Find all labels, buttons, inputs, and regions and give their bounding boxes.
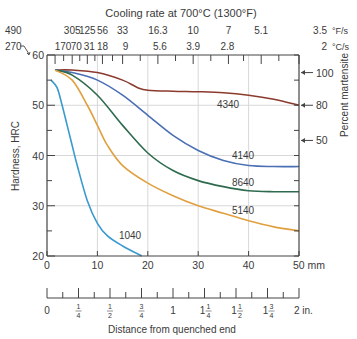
inch-frac-den: 4 <box>140 312 144 319</box>
top-f-label: 33 <box>117 25 129 36</box>
arrowhead-left-icon <box>301 103 305 108</box>
y-tick-label: 20 <box>32 250 44 262</box>
y-tick-label: 40 <box>32 150 44 162</box>
inch-frac-den: 4 <box>77 312 81 319</box>
y2-axis-label: Percent martensite <box>339 53 350 137</box>
top-f-label: 10 <box>188 25 200 36</box>
x-tick-label: 0 <box>44 259 50 271</box>
jominy-hardenability-chart: 203040506001020304050 mm490305125563316.… <box>0 0 357 339</box>
curve-4340 <box>55 70 299 105</box>
inch-frac-den: 2 <box>108 312 112 319</box>
inch-tick-label: 1 <box>170 305 176 316</box>
top-c-label: 2 <box>321 41 327 52</box>
label-1040: 1040 <box>119 230 142 241</box>
top-c-label: 31 <box>84 41 96 52</box>
top-f-label: 490 <box>5 25 22 36</box>
top-f-label: 56 <box>97 25 109 36</box>
inch-frac-num: 1 <box>238 303 242 310</box>
top-c-label: 2.8 <box>220 41 234 52</box>
chart-title: Cooling rate at 700°C (1300°F) <box>105 7 256 19</box>
y-axis-label: Hardness, HRC <box>10 121 21 191</box>
inch-tick-label: 1 <box>263 305 269 316</box>
top-c-label: 170 <box>55 41 72 52</box>
x-tick-label: 40 <box>243 259 255 271</box>
inch-frac-num: 3 <box>270 303 274 310</box>
top-c-label: 3.9 <box>186 41 200 52</box>
label-5140: 5140 <box>232 205 255 216</box>
x-tick-label: 20 <box>142 259 154 271</box>
top-unit-f: °F/s <box>332 26 349 36</box>
inch-frac-den: 4 <box>270 312 274 319</box>
top-c-label: 18 <box>97 41 109 52</box>
x-tick-label: 50 mm <box>293 259 325 271</box>
series-curves <box>51 70 299 256</box>
inch-frac-den: 2 <box>238 312 242 319</box>
label-4140: 4140 <box>232 150 255 161</box>
top-c-label: 270 <box>5 41 22 52</box>
x-tick-label: 10 <box>92 259 104 271</box>
label-8640: 8640 <box>232 177 255 188</box>
grid-lines <box>47 55 299 256</box>
inch-frac-den: 4 <box>207 312 211 319</box>
martensite-label: 80 <box>316 99 328 111</box>
martensite-label: 50 <box>316 134 328 146</box>
martensite-label: 100 <box>316 67 334 79</box>
y-tick-label: 60 <box>32 49 44 61</box>
top-c-label: 9 <box>123 41 129 52</box>
curve-8640 <box>55 70 299 192</box>
label-4340: 4340 <box>217 99 240 110</box>
top-f-label: 125 <box>79 25 96 36</box>
inch-tick-label: 0 <box>44 305 50 316</box>
inch-frac-num: 1 <box>77 303 81 310</box>
inch-tick-label: 1 <box>200 305 206 316</box>
axis-text: 203040506001020304050 mm490305125563316.… <box>5 25 334 319</box>
top-f-label: 5.1 <box>254 25 268 36</box>
inch-tick-label: 1 <box>231 305 237 316</box>
top-f-label: 3.5 <box>313 25 327 36</box>
curve-4140 <box>55 70 299 167</box>
inch-frac-num: 1 <box>108 303 112 310</box>
inch-frac-num: 3 <box>140 303 144 310</box>
inch-tick-label: 2 in. <box>294 305 313 316</box>
x-axis-label: Distance from quenched end <box>108 324 236 335</box>
x-tick-label: 30 <box>192 259 204 271</box>
top-f-label: 16.3 <box>148 25 168 36</box>
curve-5140 <box>55 70 299 231</box>
top-c-label: 5.6 <box>153 41 167 52</box>
inch-frac-num: 1 <box>207 303 211 310</box>
y-tick-label: 50 <box>32 99 44 111</box>
arrowhead-left-icon <box>301 70 305 75</box>
top-unit-c: °C/s <box>332 42 350 52</box>
axes <box>20 46 313 298</box>
y-tick-label: 30 <box>32 200 44 212</box>
top-f-label: 7 <box>226 25 232 36</box>
arrowhead-left-icon <box>301 138 305 143</box>
top-c-label: 70 <box>71 41 83 52</box>
